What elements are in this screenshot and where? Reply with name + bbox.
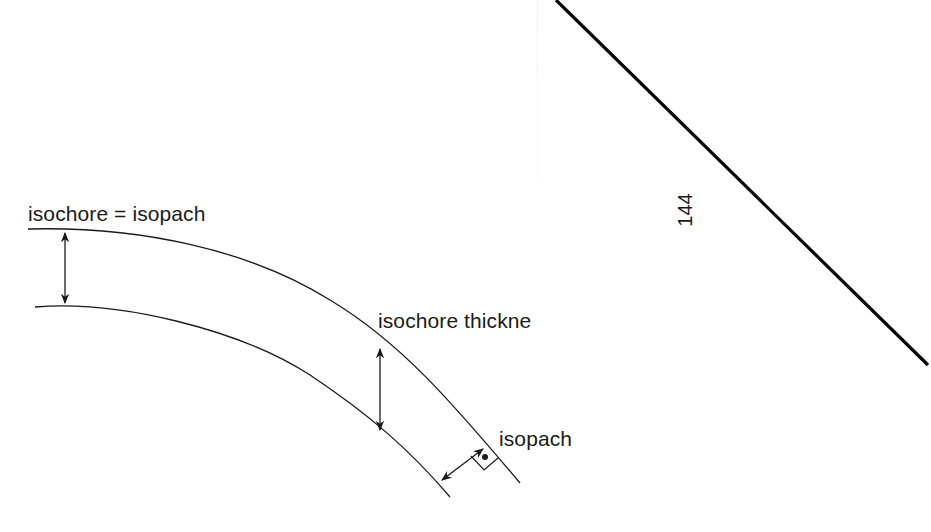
lower-bed-boundary (35, 306, 450, 497)
label-isochore-thickness: isochore thickne (378, 310, 553, 331)
page-edge-line (556, 0, 928, 365)
upper-bed-boundary (28, 229, 520, 483)
page-number: 144 (675, 193, 695, 226)
diagram-svg (0, 0, 931, 532)
label-isopach: isopach (499, 428, 572, 449)
right-angle-dot-icon (482, 454, 488, 460)
isopach-arrow (442, 449, 483, 480)
diagram-canvas: isochore = isopach isochore thickne isop… (0, 0, 931, 532)
label-isochore-equals-isopach: isochore = isopach (28, 203, 206, 224)
scan-artifact (537, 0, 538, 180)
